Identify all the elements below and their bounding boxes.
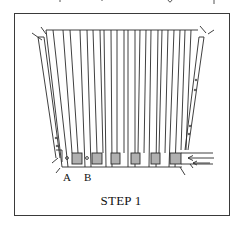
left-side-panel xyxy=(32,27,62,163)
insertion-tube xyxy=(181,153,213,164)
leader-a xyxy=(56,168,60,173)
leader-right xyxy=(180,167,185,175)
hole-b xyxy=(86,157,89,160)
right-side-panel xyxy=(185,26,214,150)
label-b: B xyxy=(84,172,91,183)
assembly-illustration xyxy=(0,0,242,225)
slats xyxy=(46,30,191,167)
label-a: A xyxy=(63,172,71,183)
step-caption: STEP 1 xyxy=(0,193,242,209)
